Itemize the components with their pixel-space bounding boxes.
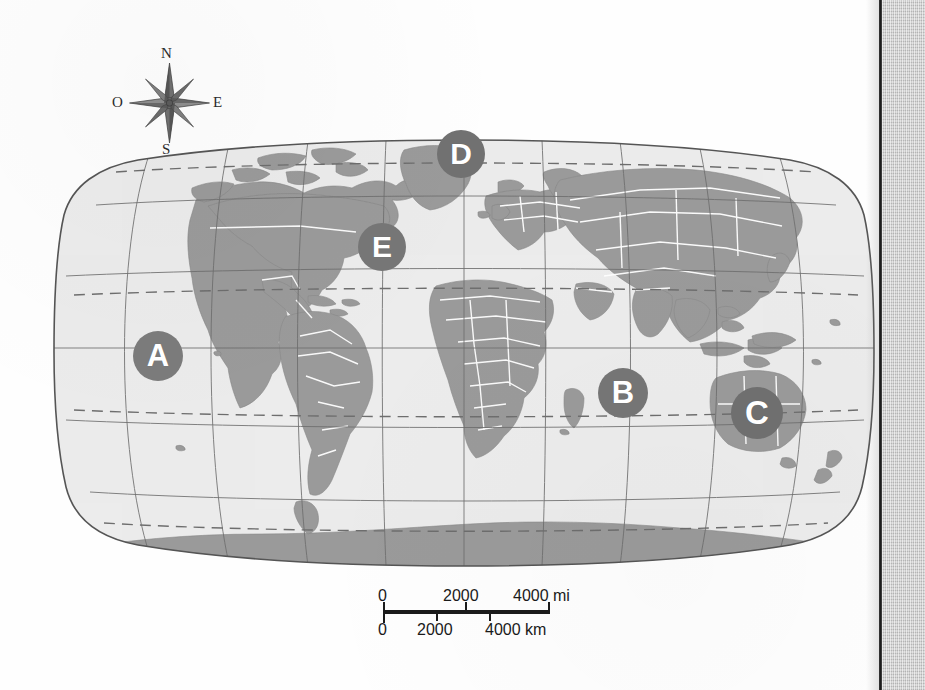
compass-west-label: O [112,95,123,110]
scale-tick-km-1 [436,612,438,621]
map-marker-label: B [612,375,634,411]
scale-km-2000: 2000 [417,622,453,638]
compass-south-label: S [162,142,170,157]
scale-mi-4000: 4000 mi [513,588,570,604]
scale-tick-mi-end [548,602,550,614]
scale-tick-km-2 [489,612,491,621]
scale-km-0: 0 [378,622,387,638]
page-edge-shadow [866,0,880,690]
map-marker-label: D [450,137,472,171]
compass-east-label: E [213,95,222,110]
scale-tick-mi-mid [465,602,467,611]
map-marker-d[interactable]: D [437,130,485,178]
map-marker-b[interactable]: B [598,368,648,418]
map-marker-label: A [147,338,169,374]
map-page: N S O E ABCDE 0 2000 4000 mi 0 2000 4000… [0,0,925,690]
compass-north-label: N [161,46,172,61]
map-marker-label: E [372,230,392,264]
book-page-edge [882,0,925,690]
compass-rose: N S O E [112,46,227,158]
map-marker-e[interactable]: E [358,223,406,271]
map-scale-bar: 0 2000 4000 mi 0 2000 4000 km [375,588,595,646]
scale-mi-2000: 2000 [443,588,479,604]
map-marker-label: C [745,394,769,432]
map-marker-c[interactable]: C [731,387,783,439]
map-marker-a[interactable]: A [133,331,183,381]
scale-km-4000: 4000 km [485,622,546,638]
